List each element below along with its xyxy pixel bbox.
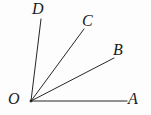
label-B: B xyxy=(113,42,123,58)
label-C: C xyxy=(82,13,93,29)
label-O: O xyxy=(8,91,20,107)
ray-OB xyxy=(31,58,114,101)
label-D: D xyxy=(32,1,44,17)
geometry-figure: O A B C D xyxy=(0,0,151,115)
vertex-point-O xyxy=(30,100,33,103)
label-A: A xyxy=(128,91,138,107)
